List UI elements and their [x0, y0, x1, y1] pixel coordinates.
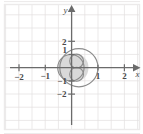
- y-tick-label-neg1: −1: [57, 76, 67, 86]
- polar-graph-figure: −2 −1 1 2 2 1 −1 −2 x y: [0, 0, 143, 134]
- x-tick-label-neg1: −1: [40, 71, 50, 81]
- x-axis-label: x: [135, 69, 140, 79]
- plot-canvas: −2 −1 1 2 2 1 −1 −2 x y: [0, 0, 143, 134]
- y-tick-label-pos1: 1: [63, 45, 68, 55]
- x-tick-label-pos1: 1: [96, 71, 101, 81]
- y-axis-label: y: [63, 5, 68, 15]
- x-tick-label-pos2: 2: [122, 71, 127, 81]
- x-tick-label-neg2: −2: [14, 72, 24, 82]
- y-tick-label-neg2: −2: [57, 89, 67, 99]
